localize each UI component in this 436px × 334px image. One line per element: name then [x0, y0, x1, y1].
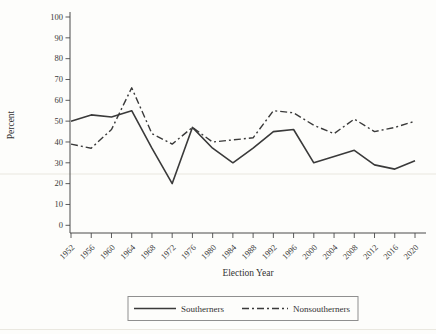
x-tick-label: 1964: [118, 242, 138, 262]
x-tick-label: 2000: [300, 242, 319, 261]
x-axis-title: Election Year: [222, 268, 274, 278]
x-tick-label: 1952: [57, 242, 76, 261]
y-tick-label: 100: [50, 12, 63, 22]
x-tick-label: 2008: [341, 242, 360, 261]
y-tick-label: 10: [55, 199, 64, 209]
y-tick-label: 80: [55, 53, 64, 63]
x-tick-label: 1956: [78, 242, 97, 261]
x-tick-label: 1980: [199, 242, 218, 261]
y-tick-label: 20: [55, 178, 64, 188]
series-line-southerners: [71, 111, 415, 184]
x-tick-label: 1960: [98, 242, 117, 261]
series-line-nonsoutherners: [71, 88, 415, 148]
legend: Southerners Nonsoutherners: [128, 297, 358, 321]
legend-label-nonsoutherners: Nonsoutherners: [293, 304, 350, 314]
y-axis: 0102030405060708090100: [50, 12, 70, 233]
legend-label-southerners: Southerners: [181, 304, 224, 314]
y-tick-label: 50: [55, 116, 64, 126]
y-tick-label: 0: [59, 220, 63, 230]
x-tick-label: 2004: [320, 242, 340, 262]
chart-figure: 0102030405060708090100 19521956196019641…: [0, 0, 436, 334]
x-tick-label: 1988: [239, 242, 258, 261]
x-axis: 1952195619601964196819721976198019841988…: [57, 233, 426, 261]
y-tick-group: 0102030405060708090100: [50, 12, 70, 230]
chart-svg: 0102030405060708090100 19521956196019641…: [0, 0, 436, 334]
x-tick-label: 1996: [280, 242, 299, 261]
x-tick-label: 2016: [381, 242, 400, 261]
x-tick-label: 2020: [401, 242, 420, 261]
x-tick-label: 1972: [158, 242, 177, 261]
x-tick-label: 1984: [219, 242, 239, 262]
x-tick-label: 1968: [138, 242, 157, 261]
y-tick-label: 90: [55, 33, 64, 43]
y-tick-label: 40: [55, 137, 64, 147]
y-tick-label: 60: [55, 95, 64, 105]
y-tick-label: 30: [55, 158, 64, 168]
x-tick-label: 2012: [361, 242, 380, 261]
y-tick-label: 70: [55, 74, 64, 84]
series-group: [71, 88, 415, 184]
x-tick-label: 1976: [179, 242, 198, 261]
y-axis-title: Percent: [6, 110, 16, 139]
x-tick-label: 1992: [260, 242, 279, 261]
x-tick-group: 1952195619601964196819721976198019841988…: [57, 233, 420, 261]
